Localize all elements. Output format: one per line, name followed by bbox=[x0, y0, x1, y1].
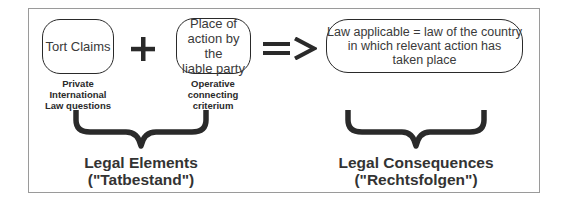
box-line: action by the bbox=[177, 31, 250, 61]
result-line: in which relevant action has bbox=[327, 39, 522, 53]
tort-claims-caption: Private International Law questions bbox=[28, 78, 128, 111]
group-subtitle: ("Rechtsfolgen") bbox=[326, 171, 506, 188]
caption-line: Operative bbox=[163, 78, 263, 89]
group-subtitle: ("Tatbestand") bbox=[66, 171, 216, 188]
caption-line: connecting bbox=[163, 89, 263, 100]
box-line: Place of bbox=[177, 16, 250, 31]
tort-claims-box: Tort Claims bbox=[42, 19, 114, 74]
legal-consequences-label: Legal Consequences ("Rechtsfolgen") bbox=[326, 154, 506, 188]
implies-arrow-icon bbox=[263, 37, 317, 60]
plus-icon bbox=[131, 37, 155, 61]
place-of-action-box: Place of action by the liable party bbox=[176, 18, 251, 74]
tort-claims-text: Tort Claims bbox=[45, 39, 110, 54]
legal-elements-label: Legal Elements ("Tatbestand") bbox=[66, 154, 216, 188]
result-line: taken place bbox=[327, 53, 522, 67]
box-line: liable party bbox=[177, 61, 250, 76]
right-brace-icon bbox=[344, 108, 489, 150]
caption-line: International bbox=[28, 89, 128, 100]
place-of-action-caption: Operative connecting criterium bbox=[163, 78, 263, 111]
result-box: Law applicable = law of the country in w… bbox=[326, 19, 523, 73]
result-line: Law applicable = law of the country bbox=[327, 25, 522, 39]
caption-line: Private bbox=[28, 78, 128, 89]
left-brace-icon bbox=[72, 108, 212, 150]
group-title: Legal Elements bbox=[66, 154, 216, 171]
group-title: Legal Consequences bbox=[326, 154, 506, 171]
